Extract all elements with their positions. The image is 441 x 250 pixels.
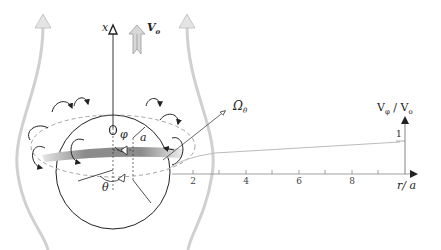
one-mark-label: 1: [396, 130, 402, 139]
phi-label: φ: [120, 129, 128, 140]
v-ratio-label: Vφ / Vo: [377, 102, 413, 116]
diagram-canvas: [0, 0, 441, 250]
v-ratio-axis: [396, 116, 409, 174]
left-streamline: [17, 14, 51, 250]
velocity-ratio-curve: [167, 142, 400, 170]
r-tick-6: 6: [296, 177, 302, 186]
theta-arrow-icon: [118, 174, 125, 182]
r-axis: [172, 170, 418, 178]
omega-label: Ωθ: [233, 100, 247, 115]
theta-label: θ: [102, 182, 109, 193]
free-stream-label: Vo: [147, 22, 160, 35]
r-tick-4: 4: [243, 177, 249, 186]
sphere-flow-diagram: x Vo Ωθ φ a θ Vφ / Vo 1 r/ a 2 4 6 8: [0, 0, 441, 250]
r-tick-2: 2: [190, 177, 196, 186]
x-axis: [109, 25, 117, 128]
right-streamline: [179, 14, 213, 250]
x-axis-label: x: [102, 22, 108, 33]
radius-label: a: [140, 132, 147, 143]
r-axis-label: r/ a: [397, 180, 416, 191]
theta-ray-left: [78, 170, 113, 181]
theta-ray-right: [133, 180, 151, 203]
r-tick-8: 8: [349, 177, 355, 186]
free-stream-arrow: [129, 25, 145, 54]
